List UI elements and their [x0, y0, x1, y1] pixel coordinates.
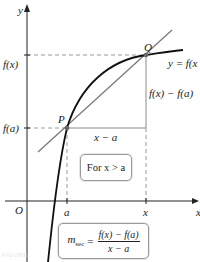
formula-fraction: f(x) − f(a) x − a: [98, 229, 140, 254]
rise-label: f(x) − f(a): [149, 88, 193, 99]
x-axis-label: x: [196, 207, 200, 218]
point-p-marker: [65, 126, 70, 131]
formula-numerator: f(x) − f(a): [98, 229, 140, 242]
x-tick-label-a: a: [64, 207, 70, 218]
point-q-marker: [144, 53, 149, 58]
point-p-label: P: [58, 114, 65, 125]
formula-equals: =: [87, 235, 93, 247]
formula-lhs: msec: [67, 233, 84, 248]
y-tick-label-fa: f(a): [3, 123, 19, 134]
curve-label: y = f(x: [168, 58, 197, 69]
formula-denominator: x − a: [108, 242, 129, 254]
secant-slope-formula: msec = f(x) − f(a) x − a: [58, 223, 149, 259]
origin-label: O: [15, 205, 23, 216]
run-label: x − a: [94, 132, 117, 143]
x-axis-arrow-icon: [192, 198, 199, 204]
formula-sub: sec: [75, 241, 84, 249]
y-tick-label-fx: f(x): [3, 59, 18, 70]
y-axis-arrow-icon: [24, 4, 30, 12]
y-axis-label: y: [18, 5, 23, 16]
condition-box: For x > a: [80, 154, 132, 181]
condition-text: For x > a: [87, 162, 125, 173]
x-tick-label-x: x: [143, 207, 148, 218]
figure-caption: FIGURE: [2, 252, 28, 258]
point-q-label: Q: [144, 42, 152, 53]
